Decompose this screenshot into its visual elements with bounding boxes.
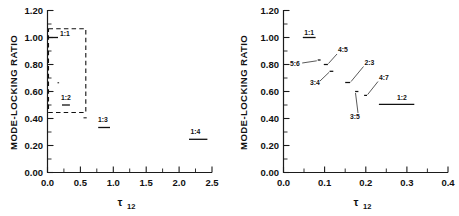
- x-tick-label: 2.0: [172, 177, 185, 188]
- y-tick-label: 1.20: [261, 5, 280, 16]
- leader-line-2-3: [351, 67, 364, 82]
- x-tick-label: 1.5: [140, 177, 154, 188]
- y-axis-title-left: MODE-LOCKING RATIO: [8, 35, 19, 150]
- leader-line-4-7: [368, 82, 378, 95]
- mode-locking-ratio-figure: MODE-LOCKING RATIO 1.20 1.00 0.80 0.60 0…: [0, 0, 459, 216]
- x-axis-major-ticks-right: [284, 167, 449, 173]
- y-axis-title-right: MODE-LOCKING RATIO: [238, 35, 249, 150]
- leader-line-4-5: [328, 54, 337, 64]
- leader-line-3-4: [320, 72, 329, 81]
- ratio-label-1-1: 1:1: [60, 30, 70, 37]
- y-tick-label: 0.20: [25, 140, 44, 151]
- left-panel-svg: MODE-LOCKING RATIO 1.20 1.00 0.80 0.60 0…: [0, 0, 229, 216]
- data-point: [58, 82, 60, 83]
- x-tick-label: 0.1: [318, 177, 332, 188]
- x-axis-subscript-left: 12: [127, 202, 135, 211]
- chart-panel-left: MODE-LOCKING RATIO 1.20 1.00 0.80 0.60 0…: [0, 0, 229, 216]
- y-tick-label: 0.80: [25, 59, 44, 70]
- y-tick-label: 1.20: [25, 5, 44, 16]
- y-tick-label: 0.40: [261, 113, 280, 124]
- y-tick-label: 0.20: [261, 140, 280, 151]
- ratio-label-1-2: 1:2: [61, 94, 71, 101]
- leader-line-5-6: [302, 61, 317, 63]
- ratio-label-3-4: 3:4: [310, 79, 320, 86]
- x-tick-label: 2.5: [205, 177, 219, 188]
- ratio-label-4-7: 4:7: [379, 74, 389, 81]
- x-tick-label: 0.0: [41, 177, 54, 188]
- y-axis-major-ticks-right: [284, 11, 290, 173]
- x-axis-subscript-right: 12: [363, 202, 371, 211]
- data-point: [84, 117, 87, 118]
- x-axis-title-left: τ: [118, 196, 123, 208]
- y-tick-label: 0.40: [25, 113, 44, 124]
- ratio-label-1-2: 1:2: [397, 94, 407, 101]
- x-tick-label: 0.2: [359, 177, 372, 188]
- x-tick-label: 0.0: [277, 177, 290, 188]
- right-panel-svg: MODE-LOCKING RATIO 1.20 1.00 0.80 0.60 0…: [230, 0, 459, 216]
- ratio-label-2-3: 2:3: [365, 59, 375, 66]
- x-tick-label: 0.3: [400, 177, 413, 188]
- ratio-label-1-1: 1:1: [304, 29, 314, 36]
- ratio-label-1-3: 1:3: [98, 116, 108, 123]
- y-tick-label: 0.60: [261, 86, 280, 97]
- x-tick-label: 0.5: [74, 177, 88, 188]
- y-tick-label: 1.00: [25, 32, 44, 43]
- leader-line-3-5: [356, 93, 359, 113]
- ratio-label-5-6: 5:6: [290, 60, 300, 67]
- x-axis-title-right: τ: [354, 196, 359, 208]
- y-tick-label: 0.60: [25, 86, 44, 97]
- ratio-label-1-4: 1:4: [191, 128, 201, 135]
- y-tick-label: 1.00: [261, 32, 280, 43]
- x-tick-label: 1.0: [107, 177, 120, 188]
- ratio-label-3-5: 3:5: [350, 113, 360, 120]
- x-tick-label: 0.4: [441, 177, 455, 188]
- ratio-label-4-5: 4:5: [338, 46, 348, 53]
- y-tick-label: 0.80: [261, 59, 280, 70]
- chart-panel-right: MODE-LOCKING RATIO 1.20 1.00 0.80 0.60 0…: [230, 0, 459, 216]
